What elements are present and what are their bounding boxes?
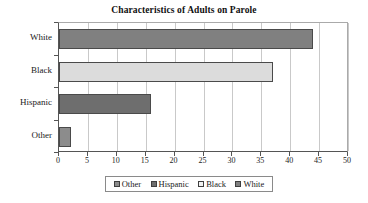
x-axis-label-5: 5 (77, 156, 97, 165)
plot-area (58, 22, 348, 152)
bar-other (59, 127, 71, 147)
legend-swatch-icon (151, 181, 157, 187)
x-axis-label-35: 35 (250, 156, 270, 165)
legend-item-black[interactable]: Black (198, 179, 226, 189)
chart-legend: OtherHispanicBlackWhite (105, 176, 273, 192)
legend-swatch-icon (114, 181, 120, 187)
x-axis-label-30: 30 (221, 156, 241, 165)
legend-label: Other (122, 179, 141, 189)
legend-label: Black (206, 179, 226, 189)
x-axis-label-25: 25 (193, 156, 213, 165)
x-axis-label-10: 10 (106, 156, 126, 165)
legend-swatch-icon (235, 181, 241, 187)
legend-label: White (243, 179, 264, 189)
bar-black (59, 62, 273, 82)
y-axis-label-white: White (0, 32, 52, 42)
chart-title: Characteristics of Adults on Parole (0, 5, 368, 15)
y-axis-label-hispanic: Hispanic (0, 97, 52, 107)
x-axis-label-45: 45 (308, 156, 328, 165)
legend-swatch-icon (198, 181, 204, 187)
legend-item-hispanic[interactable]: Hispanic (151, 179, 189, 189)
y-axis-label-other: Other (0, 130, 52, 140)
legend-label: Hispanic (159, 179, 189, 189)
bar-chart: Characteristics of Adults on Parole Whit… (0, 0, 368, 203)
x-axis-label-50: 50 (337, 156, 357, 165)
legend-item-other[interactable]: Other (114, 179, 141, 189)
bars-group (59, 23, 347, 151)
bar-white (59, 29, 313, 49)
x-axis-label-0: 0 (48, 156, 68, 165)
x-axis-label-15: 15 (135, 156, 155, 165)
x-axis-label-20: 20 (164, 156, 184, 165)
bar-hispanic (59, 94, 151, 114)
gridline (348, 23, 349, 151)
x-axis-label-40: 40 (279, 156, 299, 165)
y-axis-label-black: Black (0, 65, 52, 75)
legend-item-white[interactable]: White (235, 179, 264, 189)
